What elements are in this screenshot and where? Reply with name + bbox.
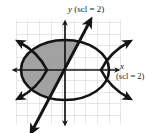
graph-figure: y (scl = 2) x (scl = 2)	[0, 0, 146, 133]
x-axis-scale-label: (scl = 2)	[116, 72, 144, 81]
coordinate-graph-svg	[0, 0, 146, 133]
y-axis-scale-text: (scl = 2)	[74, 4, 104, 14]
y-axis-label: y (scl = 2)	[68, 5, 104, 14]
